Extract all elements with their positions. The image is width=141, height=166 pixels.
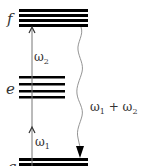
omega2-label: ω2 xyxy=(34,50,49,66)
omega-sum-label: ω1 + ω2 xyxy=(90,100,138,116)
omega1-label: ω1 xyxy=(35,135,50,151)
emission-wavy-arrow xyxy=(76,27,84,158)
level-g xyxy=(19,158,88,166)
energy-level-diagram: f e g ω2 ω1 ω1 + ω2 xyxy=(0,0,141,166)
level-f-label: f xyxy=(6,10,15,28)
level-e-label: e xyxy=(6,80,15,98)
level-g-label: g xyxy=(7,158,17,166)
level-f xyxy=(19,9,88,27)
level-e xyxy=(19,76,65,99)
